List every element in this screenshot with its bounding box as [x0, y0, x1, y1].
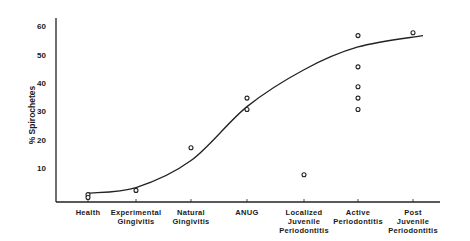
data-point — [245, 107, 249, 111]
data-point — [356, 65, 360, 69]
y-tick-label: 10 — [26, 164, 46, 173]
data-point — [356, 85, 360, 89]
data-point — [302, 173, 306, 177]
data-point — [356, 34, 360, 38]
y-tick-label: 50 — [26, 51, 46, 60]
data-points — [86, 31, 415, 200]
y-tick-label: 60 — [26, 22, 46, 31]
data-point — [245, 96, 249, 100]
y-tick-label: 40 — [26, 79, 46, 88]
y-tick-label: 20 — [26, 136, 46, 145]
fitted-curve — [88, 36, 423, 194]
data-point — [189, 146, 193, 150]
spirochete-chart: % Spirochetes 102030405060 HealthExperim… — [0, 0, 470, 241]
data-point — [356, 96, 360, 100]
x-category-label: PostJuvenilePeriodontitis — [373, 208, 453, 235]
data-point — [134, 188, 138, 192]
plot-area — [0, 0, 470, 241]
data-point — [86, 196, 90, 200]
y-tick-label: 30 — [26, 107, 46, 116]
data-point — [356, 107, 360, 111]
data-point — [411, 31, 415, 35]
